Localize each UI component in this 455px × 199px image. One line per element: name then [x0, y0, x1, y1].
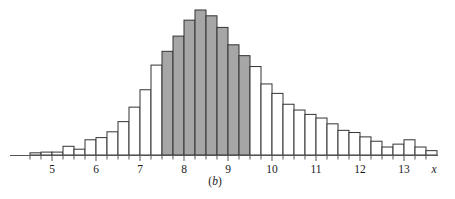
histogram-bar [360, 137, 371, 155]
histogram-bar [316, 118, 327, 155]
histogram-bar-shaded [184, 20, 195, 155]
histogram-bar [382, 147, 393, 155]
histogram-bar [338, 130, 349, 155]
figure-caption: (b) [208, 176, 221, 188]
histogram-bar [41, 152, 52, 155]
bars-group [30, 10, 437, 155]
x-axis-tick-label: 10 [266, 164, 278, 176]
histogram-bar-shaded [206, 16, 217, 155]
histogram-bar [349, 133, 360, 155]
x-axis-label: x [431, 164, 436, 176]
histogram-bar [52, 152, 63, 155]
histogram-bar [393, 144, 404, 155]
histogram-bar [140, 90, 151, 155]
x-axis-tick-label: 6 [93, 164, 99, 176]
histogram-bar [327, 124, 338, 155]
x-axis-tick-label: 5 [49, 164, 55, 176]
x-axis-tick-label: 12 [354, 164, 366, 176]
x-axis-ticks [30, 156, 426, 161]
histogram-bar [404, 140, 415, 155]
histogram-bar [305, 114, 316, 155]
histogram-bar [63, 146, 74, 155]
histogram-bar-shaded [195, 10, 206, 155]
histogram-bar [283, 104, 294, 155]
caption-close-paren: ) [218, 175, 222, 187]
x-axis-tick-label: 8 [181, 164, 187, 176]
histogram-bar [74, 149, 85, 155]
x-axis-tick-label: 9 [225, 164, 231, 176]
histogram-bar [294, 110, 305, 155]
histogram-bar-shaded [239, 56, 250, 155]
histogram-bar [371, 141, 382, 155]
x-axis-tick-label: 7 [137, 164, 143, 176]
histogram-bar [250, 67, 261, 155]
histogram-bar-shaded [162, 51, 173, 155]
histogram-bar-shaded [228, 45, 239, 155]
histogram-bar [85, 140, 96, 155]
histogram-bar-shaded [217, 27, 228, 155]
histogram-bar [426, 151, 437, 155]
histogram-bar [261, 84, 272, 155]
histogram-bar [118, 122, 129, 155]
histogram-bar [107, 132, 118, 155]
histogram-bar [30, 153, 41, 155]
histogram-bar [272, 93, 283, 155]
histogram-bar [96, 138, 107, 155]
histogram-bar [151, 65, 162, 155]
x-axis-tick-label: 13 [398, 164, 410, 176]
x-axis-tick-label: 11 [310, 164, 321, 176]
histogram-figure: 5678910111213 x (b) [0, 0, 455, 199]
histogram-bar [415, 147, 426, 155]
histogram-bar [129, 107, 140, 155]
histogram-bar-shaded [173, 36, 184, 155]
